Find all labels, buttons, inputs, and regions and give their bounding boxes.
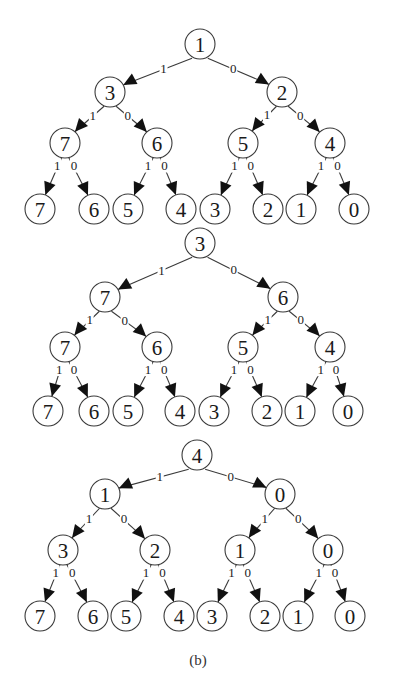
edge-left-1: 1: [217, 564, 236, 602]
leaf-node: 3: [199, 396, 229, 426]
edge-label: 0: [247, 362, 254, 377]
edge-left-1: 1: [72, 508, 100, 538]
node-label: 1: [293, 605, 304, 629]
leaf-node: 4: [165, 396, 195, 426]
edge-left-1: 1: [119, 469, 189, 488]
edge-label: 1: [264, 312, 271, 327]
node-label: 6: [278, 286, 289, 310]
leaf-node: 0: [335, 601, 365, 631]
edge-label: 0: [121, 313, 128, 328]
arrowhead-icon: [166, 181, 177, 195]
arrowhead-icon: [220, 383, 231, 397]
node-label: 1: [235, 539, 246, 563]
node-label: 7: [43, 400, 54, 424]
node-label: 0: [275, 483, 286, 507]
edge-label: 0: [161, 158, 168, 173]
node-label: 6: [152, 336, 163, 360]
edge-label: 1: [86, 312, 93, 327]
edge-label: 1: [52, 565, 59, 580]
edge-label: 1: [158, 263, 165, 278]
node-label: 3: [210, 198, 221, 222]
edge-label: 0: [245, 565, 252, 580]
edge-label: 0: [297, 108, 304, 123]
tree-node: 4: [315, 128, 345, 158]
node-label: 6: [152, 132, 163, 156]
node-label: 1: [296, 198, 307, 222]
edge-right-0: 0: [246, 361, 263, 397]
edge-label: 0: [230, 61, 237, 76]
edge-right-0: 0: [208, 257, 271, 289]
leaf-node: 7: [25, 601, 55, 631]
arrowhead-icon: [44, 588, 55, 602]
edge-right-0: 0: [116, 106, 147, 132]
tree-node: 3: [48, 535, 78, 565]
tree-node: 7: [50, 332, 80, 362]
node-label: 2: [262, 400, 273, 424]
edge-label: 1: [316, 565, 323, 580]
edge-left-1: 1: [252, 311, 277, 335]
arrowhead-icon: [335, 588, 346, 602]
tree-node: 1: [225, 535, 255, 565]
edge-label: 0: [161, 362, 168, 377]
edge-label: 1: [264, 107, 271, 122]
arrowhead-icon: [77, 181, 88, 195]
edge-right-0: 0: [67, 564, 87, 602]
tree-node: 2: [267, 77, 297, 107]
edge-label: 0: [69, 565, 76, 580]
arrowhead-icon: [165, 383, 176, 397]
edge-label: 0: [334, 158, 341, 173]
arrowhead-icon: [306, 322, 319, 336]
root-node: 1: [185, 29, 215, 59]
edge-right-0: 0: [205, 469, 266, 488]
leaf-node: 6: [78, 601, 108, 631]
edge-label: 1: [86, 511, 93, 526]
edge-label: 1: [143, 565, 150, 580]
edge-left-1: 1: [118, 257, 192, 289]
node-label: 7: [100, 286, 111, 310]
leaf-node: 4: [164, 601, 194, 631]
tree-node: 2: [140, 535, 170, 565]
leaf-node: 7: [33, 396, 63, 426]
leaf-node: 7: [25, 194, 55, 224]
leaf-node: 5: [113, 194, 143, 224]
edge-label: 1: [160, 61, 167, 76]
arrowhead-icon: [119, 478, 133, 489]
edge-label: 1: [90, 108, 97, 123]
edge-label: 0: [332, 565, 339, 580]
arrowhead-icon: [134, 118, 147, 132]
arrowhead-icon: [305, 525, 318, 539]
arrowhead-icon: [44, 181, 55, 195]
arrowhead-icon: [134, 383, 145, 397]
edge-label: 0: [159, 565, 166, 580]
arrowhead-icon: [304, 588, 315, 602]
arrowhead-icon: [164, 588, 175, 602]
edge-left-1: 1: [304, 564, 324, 602]
edge-left-1: 1: [220, 157, 239, 195]
edge-left-1: 1: [75, 106, 104, 132]
edge-label: 1: [145, 158, 152, 173]
edge-label: 0: [71, 362, 78, 377]
arrowhead-icon: [252, 321, 265, 335]
node-label: 4: [325, 132, 336, 156]
arrowhead-icon: [74, 321, 87, 335]
edge-label: 1: [56, 362, 63, 377]
arrowhead-icon: [217, 588, 228, 602]
edge-label: 1: [145, 362, 152, 377]
edge-label: 0: [248, 158, 255, 173]
edge-label: 0: [298, 312, 305, 327]
tree-node: 5: [228, 128, 258, 158]
leaf-node: 1: [283, 601, 313, 631]
node-label: 0: [343, 400, 354, 424]
arrowhead-icon: [307, 181, 318, 195]
edge-label: 1: [318, 362, 325, 377]
edge-right-0: 0: [246, 157, 264, 195]
leaf-node: 2: [250, 601, 280, 631]
arrowhead-icon: [134, 181, 145, 195]
node-label: 4: [175, 400, 186, 424]
arrowhead-icon: [249, 588, 260, 602]
edge-right-0: 0: [111, 508, 145, 539]
edge-label: 0: [295, 511, 302, 526]
node-label: 5: [123, 198, 134, 222]
tree-node: 6: [268, 282, 298, 312]
tree-node: 3: [95, 77, 125, 107]
